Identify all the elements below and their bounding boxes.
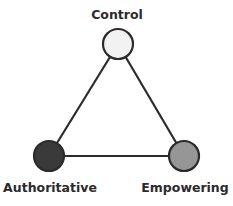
label-empowering: Empowering: [141, 180, 228, 195]
label-authoritative: Authoritative: [3, 180, 97, 195]
triangle-diagram: [0, 0, 233, 206]
edge-control-empowering: [118, 44, 184, 156]
node-authoritative: [34, 141, 64, 171]
node-control: [103, 29, 133, 59]
label-control: Control: [91, 7, 143, 22]
edge-control-authoritative: [49, 44, 118, 156]
node-empowering: [169, 141, 199, 171]
